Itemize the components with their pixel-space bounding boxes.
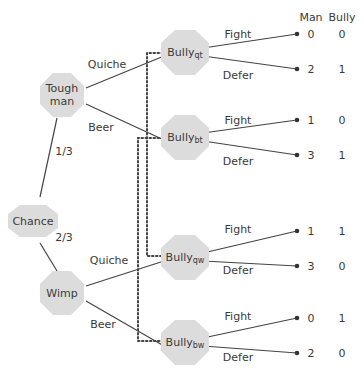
- node-bully-bw: Bullybw: [161, 320, 209, 365]
- terminal-dot: [295, 32, 300, 37]
- node-chance: Chance: [8, 205, 58, 237]
- payoff-bully: 1: [339, 149, 346, 162]
- label-wimp-beer: Beer: [90, 318, 116, 331]
- node-label: Tough: [45, 82, 79, 95]
- edge-qt-defer: [203, 56, 297, 69]
- node-bully-bt: Bullybt: [161, 115, 209, 160]
- node-bully-qw: Bullyqw: [161, 235, 209, 280]
- terminal-dot: [295, 264, 300, 269]
- payoff-bully: 0: [339, 347, 346, 360]
- label-tough-beer: Beer: [88, 121, 114, 134]
- terminal-dot: [295, 118, 300, 123]
- payoff-man: 3: [308, 149, 315, 162]
- node-wimp: Wimp: [40, 271, 84, 315]
- label-defer: Defer: [223, 155, 254, 168]
- terminal-dot: [295, 316, 300, 321]
- payoff-table: 0 0 2 1 1 0 3 1 1 1 3 0 0 1 2 0: [308, 28, 346, 360]
- node-tough-man: Tough man: [40, 73, 84, 117]
- payoff-man: 2: [308, 63, 315, 76]
- label-fight: Fight: [225, 114, 253, 127]
- payoff-man: 0: [308, 28, 315, 41]
- edge-chance-wimp: [40, 243, 57, 271]
- label-prob-wimp: 2/3: [55, 231, 73, 244]
- node-label: Chance: [12, 215, 53, 228]
- payoff-man: 0: [308, 312, 315, 325]
- payoff-bully: 1: [339, 63, 346, 76]
- terminal-dot: [295, 351, 300, 356]
- label-wimp-quiche: Quiche: [90, 254, 129, 267]
- node-label: Wimp: [46, 287, 77, 300]
- label-defer: Defer: [223, 69, 254, 82]
- info-set-beer: [138, 138, 163, 341]
- header-bully: Bully: [328, 11, 356, 24]
- terminal-dot: [295, 67, 300, 72]
- payoff-bully: 0: [339, 114, 346, 127]
- label-fight: Fight: [225, 310, 253, 323]
- label-fight: Fight: [225, 223, 253, 236]
- payoff-bully: 1: [339, 225, 346, 238]
- payoff-man: 2: [308, 347, 315, 360]
- label-prob-tough: 1/3: [55, 145, 73, 158]
- label-defer: Defer: [223, 351, 254, 364]
- terminal-dot: [295, 153, 300, 158]
- payoff-bully: 0: [339, 28, 346, 41]
- node-label: man: [50, 95, 74, 108]
- label-tough-quiche: Quiche: [88, 58, 127, 71]
- payoff-man: 1: [308, 114, 315, 127]
- terminal-dot: [295, 229, 300, 234]
- payoff-bully: 0: [339, 260, 346, 273]
- header-man: Man: [299, 11, 322, 24]
- payoff-man: 1: [308, 225, 315, 238]
- payoff-bully: 1: [339, 312, 346, 325]
- node-bully-qt: Bullyqt: [161, 30, 209, 75]
- payoff-man: 3: [308, 260, 315, 273]
- edge-bt-defer: [203, 141, 297, 155]
- label-defer: Defer: [223, 264, 254, 277]
- label-fight: Fight: [225, 28, 253, 41]
- info-set-quiche: [147, 53, 163, 256]
- game-tree-diagram: Man Bully Quiche Beer 1/3 2/3 Quiche Bee…: [0, 0, 364, 377]
